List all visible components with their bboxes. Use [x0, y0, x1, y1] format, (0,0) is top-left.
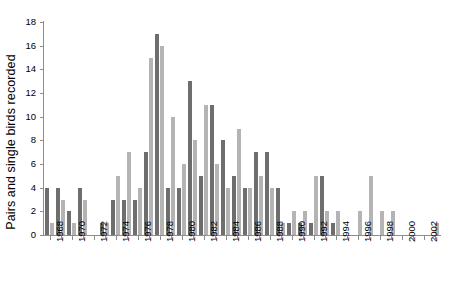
x-axis-tick-mark	[314, 236, 315, 240]
x-axis-tick-label: 1998	[384, 221, 395, 242]
x-axis-tick-mark	[215, 236, 216, 240]
x-axis-tick-mark	[248, 236, 249, 240]
x-axis-tick-mark	[182, 236, 183, 240]
y-axis-tick-label: 0	[31, 228, 36, 242]
x-axis-tick-label: 1994	[340, 221, 351, 242]
x-axis-tick-label: 1970	[76, 221, 87, 242]
x-axis-tick-label: 1968	[54, 221, 65, 242]
y-axis-tick-label: 18	[25, 15, 36, 29]
bar-chart-figure: Pairs and single birds recorded 02468101…	[0, 0, 452, 284]
x-axis-tick-mark	[83, 236, 84, 240]
x-axis-tick-mark	[116, 236, 117, 240]
y-axis-tick-label: 14	[25, 62, 36, 76]
y-axis-title: Pairs and single birds recorded	[0, 0, 22, 284]
x-axis-tick-mark	[402, 236, 403, 240]
x-axis-tick-label: 1978	[164, 221, 175, 242]
x-axis-tick-label: 1990	[296, 221, 307, 242]
y-axis-tick-label: 8	[31, 133, 36, 147]
bar-single-birds-1978	[160, 46, 165, 235]
y-axis-tick-label: 6	[31, 157, 36, 171]
x-axis-tick-mark	[380, 236, 381, 240]
x-axis-tick-mark	[369, 236, 370, 240]
x-axis-tick-mark	[105, 236, 106, 240]
plot-area	[44, 22, 440, 235]
x-axis-tick-mark	[303, 236, 304, 240]
x-axis-tick-label: 1980	[186, 221, 197, 242]
x-axis-tick-mark	[325, 236, 326, 240]
x-axis-tick-label: 1988	[274, 221, 285, 242]
x-axis-tick-label: 1976	[142, 221, 153, 242]
x-axis-tick-mark	[72, 236, 73, 240]
x-axis-tick-mark	[94, 236, 95, 240]
y-axis-tick-label: 12	[25, 86, 36, 100]
x-axis-tick-mark	[204, 236, 205, 240]
x-axis-tick-mark	[138, 236, 139, 240]
x-axis-tick-mark	[424, 236, 425, 240]
x-axis-tick-mark	[61, 236, 62, 240]
y-axis-tick-label: 2	[31, 204, 36, 218]
x-axis-tick-mark	[336, 236, 337, 240]
y-axis-tick-label: 10	[25, 110, 36, 124]
x-axis-tick-mark	[259, 236, 260, 240]
x-axis-tick-mark	[270, 236, 271, 240]
x-axis-tick-label: 1974	[120, 221, 131, 242]
x-axis-tick-label: 1982	[208, 221, 219, 242]
x-axis-tick-mark	[226, 236, 227, 240]
x-axis-tick-label: 1986	[252, 221, 263, 242]
y-axis-tick-label: 16	[25, 39, 36, 53]
x-axis-tick-mark	[292, 236, 293, 240]
x-axis-tick-label: 1972	[98, 221, 109, 242]
x-axis-tick-mark	[127, 236, 128, 240]
x-axis-tick-mark	[347, 236, 348, 240]
bar-single-birds-1982	[204, 105, 209, 235]
x-axis-tick-mark	[391, 236, 392, 240]
x-axis-tick-label: 1996	[362, 221, 373, 242]
x-axis-tick-mark	[50, 236, 51, 240]
x-axis-tick-label: 2002	[428, 221, 439, 242]
bar-single-birds-1979	[171, 117, 176, 235]
x-axis-tick-mark	[413, 236, 414, 240]
x-axis-tick-mark	[435, 236, 436, 240]
y-axis-tick-label: 4	[31, 181, 36, 195]
x-axis-tick-mark	[358, 236, 359, 240]
x-axis-tick-label: 1992	[318, 221, 329, 242]
x-axis-tick-label: 1984	[230, 221, 241, 242]
x-axis-tick-mark	[193, 236, 194, 240]
x-axis-tick-mark	[237, 236, 238, 240]
y-axis-tick-mark	[40, 235, 44, 236]
bar-single-birds-1985	[237, 129, 242, 236]
x-axis-tick-mark	[149, 236, 150, 240]
x-axis-tick-label: 2000	[406, 221, 417, 242]
x-axis-tick-mark	[171, 236, 172, 240]
bar-single-birds-1977	[149, 58, 154, 236]
x-axis-tick-mark	[281, 236, 282, 240]
x-axis-tick-mark	[160, 236, 161, 240]
